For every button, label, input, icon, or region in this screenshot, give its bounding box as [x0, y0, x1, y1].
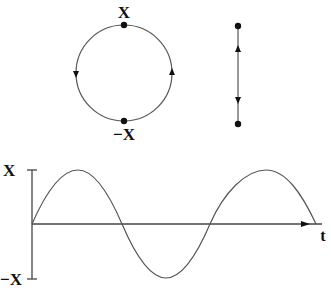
x-axis-label: t: [320, 227, 326, 244]
projection-line: [235, 23, 241, 127]
axis-arrow-icon: [301, 221, 310, 227]
arrow-down-icon: [235, 97, 241, 104]
circle-bottom-label: −X: [113, 125, 136, 144]
arrow-up-icon: [169, 68, 175, 75]
y-label-top: X: [3, 161, 16, 180]
circle-top-label: X: [118, 3, 131, 22]
bottom-point-dot: [121, 118, 127, 124]
arrow-up-icon: [235, 45, 241, 52]
arrow-down-icon: [73, 71, 79, 78]
projection-top-dot: [235, 23, 241, 29]
phase-circle: X −X: [73, 3, 175, 144]
top-point-dot: [121, 22, 127, 28]
diagram-canvas: X −X X −X t: [0, 0, 331, 298]
circle-outline: [76, 25, 172, 121]
y-label-bottom: −X: [0, 270, 23, 289]
projection-bottom-dot: [235, 121, 241, 127]
oscillation-graph: X −X t: [0, 161, 326, 289]
